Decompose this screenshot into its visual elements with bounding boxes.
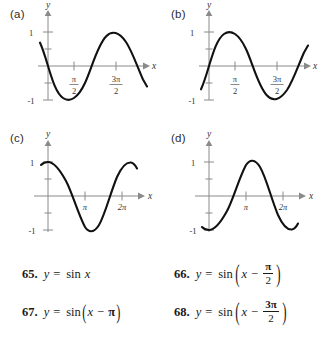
fraction-denominator: 2: [266, 313, 276, 324]
equals-sign: =: [53, 267, 60, 282]
curve-negative-cosine: [202, 161, 298, 230]
equation-lhs: y: [196, 267, 202, 282]
y-axis-label-d: y: [206, 129, 212, 139]
exercise-item-65[interactable]: 65. y = sin x: [0, 254, 160, 294]
x-axis-label-a: x: [151, 61, 157, 71]
x-tick-label-pi-den: 2: [233, 86, 237, 96]
sin-function: sin: [66, 267, 81, 282]
x-axis-arrow-icon: [138, 193, 145, 200]
equation-lhs: y: [196, 305, 202, 320]
graph-svg-a: y x 1 -1 π 2 3π 2: [0, 0, 160, 124]
sin-function: sin: [66, 305, 81, 320]
x-axis-arrow-icon: [299, 193, 306, 200]
y-tick-label-1: 1: [30, 158, 34, 168]
x-tick-label-pi-den: 2: [72, 86, 76, 96]
exercise-row-2: 67. y = sin ( x − π ) 68. y = sin ( x −: [0, 292, 321, 332]
graph-panel-a: (a) y x 1 -1 π 2: [0, 0, 160, 124]
y-tick-label-neg1: -1: [188, 96, 195, 106]
equation-lhs: y: [44, 267, 50, 282]
curve-cosine: [41, 162, 137, 231]
x-tick-label-3pi-den: 2: [114, 86, 118, 96]
minus-sign: −: [97, 305, 104, 320]
y-axis-arrow-icon: [45, 140, 52, 146]
graph-grid: (a) y x 1 -1 π 2: [0, 0, 321, 248]
sin-function: sin: [218, 305, 233, 320]
exercise-item-68[interactable]: 68. y = sin ( x − 3π 2 ): [160, 292, 320, 332]
equation-argument-variable: x: [85, 267, 91, 282]
exercise-equation-65: y = sin x: [44, 267, 91, 282]
exercise-item-66[interactable]: 66. y = sin ( x − π 2 ): [160, 254, 320, 294]
x-axis-arrow-icon: [143, 63, 150, 70]
y-tick-label-neg1: -1: [189, 226, 196, 236]
fraction-3pi-over-2: 3π 2: [263, 299, 279, 324]
equals-sign: =: [205, 267, 212, 282]
exercise-number-65: 65.: [22, 267, 38, 282]
fraction-denominator: 2: [263, 275, 273, 286]
equation-argument-variable: x: [242, 267, 248, 282]
open-paren: (: [235, 299, 239, 325]
x-tick-label-3pi-den: 2: [275, 86, 279, 96]
close-paren: ): [276, 261, 280, 287]
close-paren: ): [116, 302, 120, 322]
x-axis-label-c: x: [147, 191, 153, 201]
x-tick-label-pi-num: π: [233, 74, 238, 84]
equation-argument-variable: x: [242, 305, 248, 320]
exercise-equation-68: y = sin ( x − 3π 2 ): [196, 299, 289, 325]
open-paren: (: [82, 302, 86, 322]
x-tick-label-3pi-num: 3π: [273, 74, 282, 84]
graph-panel-b: (b) y x 1 -1 π 2 3π 2: [161, 0, 321, 124]
x-axis-arrow-icon: [304, 63, 311, 70]
y-axis-label-a: y: [45, 0, 51, 10]
fraction-pi-over-2: π 2: [263, 261, 273, 286]
sin-function: sin: [218, 267, 233, 282]
y-axis-arrow-icon: [45, 10, 52, 16]
x-tick-label-pi: π: [244, 202, 249, 212]
exercise-number-67: 67.: [22, 305, 38, 320]
x-tick-label-pi-num: π: [72, 74, 77, 84]
x-tick-label-2pi: 2π: [118, 202, 127, 212]
graph-svg-d: y x 1 -1 π 2π: [161, 124, 321, 248]
equals-sign: =: [53, 305, 60, 320]
y-tick-label-1: 1: [190, 28, 194, 38]
exercise-item-67[interactable]: 67. y = sin ( x − π ): [0, 292, 160, 332]
y-tick-label-1: 1: [191, 158, 195, 168]
fraction-numerator: 3π: [263, 299, 279, 310]
minus-sign: −: [251, 305, 258, 320]
y-axis-label-b: y: [206, 0, 212, 10]
x-axis-label-d: x: [308, 191, 314, 201]
graph-svg-b: y x 1 -1 π 2 3π 2: [161, 0, 321, 124]
equals-sign: =: [205, 305, 212, 320]
minus-sign: −: [251, 267, 258, 282]
graph-svg-c: y x 1 -1 π 2π: [0, 124, 160, 248]
pi-symbol: π: [108, 305, 115, 320]
exercise-number-66: 66.: [174, 267, 190, 282]
exercise-equation-67: y = sin ( x − π ): [44, 302, 122, 322]
fraction-numerator: π: [263, 261, 273, 272]
exercise-number-68: 68.: [174, 305, 190, 320]
exercise-row-1: 65. y = sin x 66. y = sin ( x − π 2: [0, 254, 321, 294]
equation-argument-variable: x: [88, 305, 94, 320]
x-tick-label-3pi-num: 3π: [112, 74, 121, 84]
x-tick-label-2pi: 2π: [279, 202, 288, 212]
equation-lhs: y: [44, 305, 50, 320]
graph-panel-d: (d) y x 1 -1 π 2π: [161, 124, 321, 248]
y-tick-label-1: 1: [29, 28, 33, 38]
exercise-list: 65. y = sin x 66. y = sin ( x − π 2: [0, 250, 321, 338]
x-axis-label-b: x: [312, 61, 318, 71]
exercise-equation-66: y = sin ( x − π 2 ): [196, 261, 283, 287]
open-paren: (: [235, 261, 239, 287]
y-axis-label-c: y: [45, 129, 51, 139]
graph-panel-c: (c) y x 1 -1 π 2π: [0, 124, 160, 248]
y-axis-arrow-icon: [206, 140, 213, 146]
y-tick-label-neg1: -1: [27, 96, 34, 106]
y-axis-arrow-icon: [206, 10, 213, 16]
y-tick-label-neg1: -1: [28, 226, 35, 236]
x-tick-label-pi: π: [83, 202, 88, 212]
close-paren: ): [282, 299, 286, 325]
